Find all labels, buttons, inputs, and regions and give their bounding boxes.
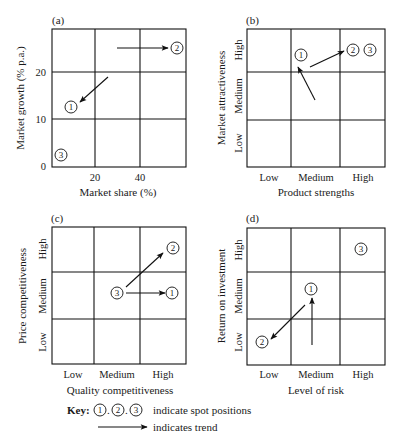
x-cat-medium-c: Medium [99, 369, 135, 380]
x-cat-low-c: Low [63, 369, 83, 380]
x-cat-high-b: High [353, 172, 375, 183]
y-cat-high-b: High [233, 39, 244, 61]
svg-text:2: 2 [351, 45, 356, 55]
trends-a [80, 48, 168, 102]
svg-text:3: 3 [368, 45, 373, 55]
spots-a: 123 [55, 42, 183, 161]
chart-b: (b) High Medium Low Low Medium High Prod… [215, 14, 385, 198]
panel-label-d: (d) [246, 212, 259, 225]
x-tick-20: 20 [90, 172, 101, 183]
y-axis-label-a: Market growth (% p.a.) [14, 46, 27, 150]
spot-3-marker: 3 [355, 243, 367, 255]
x-axis-label-b: Product strengths [278, 186, 355, 198]
svg-text:1: 1 [170, 288, 175, 298]
svg-text:2: 2 [116, 405, 121, 415]
y-axis-label-c: Price competitiveness [16, 248, 28, 344]
y-tick-10: 10 [36, 114, 47, 125]
key-separator-2: . [125, 404, 128, 416]
legend-key: Key: 1 . 2 . 3 indicate spot positions i… [67, 404, 251, 433]
key-spots-description: indicate spot positions [153, 404, 251, 416]
svg-text:3: 3 [115, 288, 120, 298]
svg-text:1: 1 [98, 405, 103, 415]
chart-a: (a) 20 10 0 20 40 Market share (%) Marke… [14, 14, 186, 199]
y-cat-medium-b: Medium [233, 78, 244, 114]
spot-3-marker: 3 [364, 44, 376, 56]
panel-label-b: (b) [246, 14, 259, 27]
panel-label-c: (c) [51, 212, 64, 225]
key-label: Key: [67, 404, 90, 416]
chart-c: (c) High Medium Low Low Medium High Qual… [16, 212, 186, 396]
x-cat-low-d: Low [259, 369, 279, 380]
y-axis-label-d: Return on investment [215, 249, 227, 344]
y-cat-low-b: Low [233, 133, 244, 153]
spot-2-marker: 2 [171, 42, 183, 54]
y-cat-medium-d: Medium [233, 278, 244, 314]
key-separator-1: . [107, 404, 110, 416]
trends-c [126, 253, 165, 293]
y-cat-high-d: High [233, 239, 244, 261]
x-cat-high-d: High [353, 369, 375, 380]
spots-c: 123 [111, 242, 179, 299]
y-cat-high-c: High [37, 238, 48, 260]
figure-four-portfolio-matrices: (a) 20 10 0 20 40 Market share (%) Marke… [0, 0, 404, 435]
spot-2-marker: 2 [167, 242, 179, 254]
spot-1-marker: 1 [295, 49, 307, 61]
spot-1-marker: 1 [166, 287, 178, 299]
x-axis-label-d: Level of risk [288, 384, 345, 396]
key-spot-3-icon: 3 [130, 404, 142, 416]
x-cat-low-b: Low [259, 172, 279, 183]
y-cat-medium-c: Medium [37, 278, 48, 314]
trend-arrow-icon [271, 305, 305, 339]
svg-text:1: 1 [309, 284, 314, 294]
x-axis-label-c: Quality competitiveness [67, 384, 174, 396]
trend-arrow-icon [80, 77, 108, 102]
svg-text:1: 1 [299, 50, 304, 60]
svg-text:2: 2 [260, 337, 265, 347]
trend-arrow-icon [310, 51, 344, 67]
key-trend-description: indicates trend [153, 421, 218, 433]
x-axis-label-a: Market share (%) [80, 186, 157, 199]
y-cat-low-d: Low [233, 332, 244, 352]
spot-2-marker: 2 [256, 336, 268, 348]
x-cat-medium-b: Medium [298, 172, 334, 183]
spot-1-marker: 1 [65, 101, 77, 113]
svg-text:3: 3 [59, 150, 64, 160]
spot-3-marker: 3 [55, 149, 67, 161]
svg-text:1: 1 [69, 102, 74, 112]
trend-arrow-icon [126, 253, 163, 287]
plot-frame [52, 29, 186, 167]
y-tick-0: 0 [41, 161, 46, 172]
x-tick-40: 40 [135, 172, 146, 183]
svg-text:2: 2 [171, 243, 176, 253]
key-spot-1-icon: 1 [94, 404, 106, 416]
spot-3-marker: 3 [111, 287, 123, 299]
y-tick-20: 20 [36, 67, 47, 78]
svg-text:3: 3 [134, 405, 139, 415]
chart-d: (d) High Medium Low Low Medium High Leve… [215, 212, 385, 396]
svg-text:2: 2 [175, 43, 180, 53]
panel-label-a: (a) [52, 14, 65, 27]
x-cat-high-c: High [153, 369, 175, 380]
y-axis-label-b: Market attractiveness [215, 51, 227, 145]
spot-1-marker: 1 [305, 283, 317, 295]
key-spot-2-icon: 2 [112, 404, 124, 416]
y-cat-low-c: Low [37, 332, 48, 352]
spots-b: 123 [295, 44, 376, 61]
figure-canvas: (a) 20 10 0 20 40 Market share (%) Marke… [0, 0, 404, 435]
grid-a [52, 29, 186, 167]
spot-2-marker: 2 [347, 44, 359, 56]
x-cat-medium-d: Medium [298, 369, 334, 380]
svg-text:3: 3 [359, 244, 364, 254]
